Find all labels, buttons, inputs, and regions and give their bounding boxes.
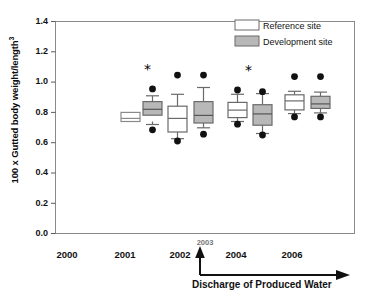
- outlier-point: [317, 73, 324, 80]
- outlier-point: [259, 88, 266, 95]
- outlier-point: [234, 87, 241, 94]
- outlier-point: [174, 72, 181, 79]
- boxplot-2001-development: [143, 86, 162, 134]
- outlier-point: [317, 114, 324, 121]
- outlier-point: [174, 138, 181, 145]
- chart-graphics-layer: [0, 0, 369, 300]
- discharge-arrow: [195, 246, 350, 280]
- legend-swatch-development: [235, 36, 259, 46]
- boxplot-2004-development: [253, 88, 272, 138]
- boxplot-2002-development: [194, 72, 213, 138]
- outlier-point: [259, 132, 266, 139]
- legend-swatch-reference: [235, 20, 259, 30]
- boxplot-2004-reference: [228, 87, 247, 128]
- boxplot-2006-reference: [285, 73, 304, 120]
- boxplot-2002-reference: [168, 72, 187, 145]
- outlier-point: [234, 121, 241, 128]
- outlier-point: [200, 131, 207, 138]
- boxplot-2001-reference: [121, 112, 140, 121]
- outlier-point: [200, 72, 207, 79]
- outlier-point: [149, 126, 156, 133]
- chart-figure: 100 x Gutted body weight/length3 1.4 1.2…: [0, 0, 369, 300]
- outlier-point: [291, 114, 298, 121]
- outlier-point: [149, 86, 156, 93]
- boxplot-2006-development: [311, 73, 330, 120]
- outlier-point: [291, 73, 298, 80]
- y-axis-ticks: [51, 22, 56, 234]
